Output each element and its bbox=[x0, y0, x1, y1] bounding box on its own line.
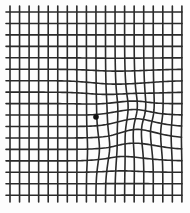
grid-line bbox=[6, 92, 182, 94]
grid-line bbox=[6, 101, 182, 104]
grid-line bbox=[6, 110, 182, 116]
fixation-dot bbox=[93, 114, 99, 120]
grid-line bbox=[6, 171, 182, 172]
distorted-grid bbox=[0, 0, 190, 213]
grid-line bbox=[6, 129, 182, 138]
amsler-grid-figure bbox=[0, 0, 190, 213]
grid-line bbox=[6, 156, 182, 160]
grid-line bbox=[6, 119, 182, 127]
grid-line bbox=[6, 81, 182, 84]
grid-line bbox=[6, 69, 182, 71]
grid-line bbox=[6, 143, 182, 149]
horizontal-grid-lines bbox=[6, 12, 182, 195]
